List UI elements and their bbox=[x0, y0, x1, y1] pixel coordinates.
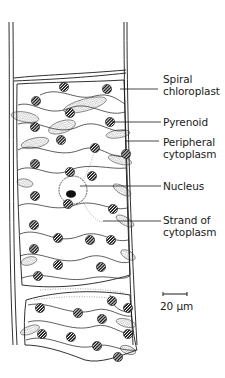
pyrenoid-icon bbox=[35, 303, 44, 312]
pyrenoid-icon bbox=[73, 308, 82, 317]
pyrenoid-icon bbox=[87, 171, 96, 180]
pyrenoid-icon bbox=[108, 204, 117, 213]
cytoplasm-patch bbox=[106, 128, 131, 139]
pyrenoid-icon bbox=[31, 96, 40, 105]
scale-bar-label: 20 μm bbox=[160, 300, 193, 312]
pyrenoid-icon bbox=[65, 108, 74, 117]
pyrenoid-icon bbox=[123, 329, 132, 338]
pyrenoid-icon bbox=[106, 235, 115, 244]
pyrenoid-icon bbox=[29, 220, 38, 229]
cytoplasm-patch bbox=[119, 248, 137, 263]
cytoplasm-patch bbox=[20, 255, 38, 267]
label-strand-of-cytoplasm: Strand of cytoplasm bbox=[163, 214, 216, 238]
pyrenoid-icon bbox=[53, 260, 62, 269]
label-spiral-chloroplast: Spiral chloroplast bbox=[163, 73, 220, 97]
pyrenoid-icon bbox=[102, 84, 111, 93]
pyrenoid-icon bbox=[85, 235, 94, 244]
pyrenoid-icon bbox=[65, 167, 74, 176]
pyrenoid-icon bbox=[53, 233, 62, 242]
pyrenoid-icon bbox=[90, 143, 99, 152]
nucleus bbox=[59, 176, 87, 204]
pyrenoid-icon bbox=[30, 122, 39, 131]
pyrenoid-icon bbox=[97, 314, 106, 323]
pyrenoid-icon bbox=[113, 352, 122, 361]
pyrenoid-icon bbox=[56, 135, 65, 144]
pyrenoid-icon bbox=[92, 341, 101, 350]
pyrenoid-icon bbox=[63, 199, 72, 208]
pyrenoid-icon bbox=[59, 82, 68, 91]
pyrenoid-icon bbox=[33, 271, 42, 280]
pyrenoid-icon bbox=[30, 191, 39, 200]
pyrenoid-icon bbox=[123, 303, 132, 312]
cytoplasm-patch bbox=[115, 317, 136, 330]
label-nucleus: Nucleus bbox=[163, 180, 204, 192]
spirogyra-diagram: Spiral chloroplast Pyrenoid Peripheral c… bbox=[0, 0, 225, 378]
pyrenoid-icon bbox=[121, 149, 130, 158]
pyrenoid-icon bbox=[37, 329, 46, 338]
pyrenoid-icon bbox=[107, 296, 116, 305]
cytoplasm-patch bbox=[16, 178, 33, 189]
label-peripheral-cytoplasm: Peripheral cytoplasm bbox=[163, 136, 216, 160]
pyrenoid-icon bbox=[30, 159, 39, 168]
label-pyrenoid: Pyrenoid bbox=[163, 116, 208, 128]
pyrenoid-icon bbox=[96, 262, 105, 271]
cytoplasm-patch bbox=[47, 117, 77, 137]
scale-bar bbox=[163, 292, 187, 296]
pyrenoid-icon bbox=[29, 244, 38, 253]
nucleolus bbox=[66, 190, 76, 198]
pyrenoid-icon bbox=[66, 332, 75, 341]
cytoplasm-patch bbox=[20, 135, 49, 151]
